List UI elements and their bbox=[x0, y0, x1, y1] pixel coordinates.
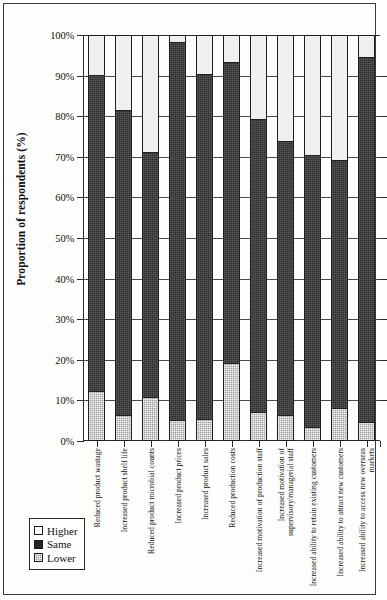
bar-segment-same bbox=[251, 119, 266, 413]
legend-swatch-higher-icon bbox=[34, 526, 43, 535]
y-axis-tick-right bbox=[379, 116, 387, 117]
x-axis-tick bbox=[353, 441, 380, 448]
y-axis-tick-label: 70% bbox=[55, 151, 74, 162]
category-label-slot: Increased product sales bbox=[191, 448, 218, 594]
x-axis-tick bbox=[299, 441, 326, 448]
bar-segment-same bbox=[89, 75, 104, 392]
x-axis-tick bbox=[326, 441, 353, 448]
category-label-slot: Increased motivation of production staff bbox=[245, 448, 272, 594]
bar-segment-lower bbox=[332, 409, 347, 440]
category-label: Increased motivation of production staff bbox=[254, 448, 263, 590]
bar-segment-higher bbox=[251, 36, 266, 119]
category-label-slot: Increased ability to access new overseas… bbox=[353, 448, 380, 594]
y-axis-tick-label: 90% bbox=[55, 70, 74, 81]
category-label: Increased product shelf life bbox=[119, 448, 128, 590]
stacked-bar[interactable] bbox=[331, 35, 348, 441]
bar-slot bbox=[299, 35, 326, 441]
category-label: Increased ability to retain existing cus… bbox=[308, 448, 317, 590]
bar-segment-higher bbox=[278, 36, 293, 141]
bar-segment-lower bbox=[89, 392, 104, 440]
y-axis-tick-label: 40% bbox=[55, 273, 74, 284]
x-axis-tick bbox=[218, 441, 245, 448]
y-axis-tick-label: 30% bbox=[55, 314, 74, 325]
bar-segment-same bbox=[197, 74, 212, 420]
legend-item-lower: Lower bbox=[34, 552, 78, 564]
x-axis-tick bbox=[164, 441, 191, 448]
stacked-bar[interactable] bbox=[304, 35, 321, 441]
bar-segment-higher bbox=[89, 36, 104, 75]
bar-slot bbox=[83, 35, 110, 441]
stacked-bar[interactable] bbox=[277, 35, 294, 441]
bar-slot bbox=[191, 35, 218, 441]
y-axis-tick-right bbox=[379, 197, 387, 198]
bar-slot bbox=[164, 35, 191, 441]
y-axis-tick-label: 100% bbox=[50, 30, 74, 41]
bar-segment-higher bbox=[305, 36, 320, 155]
stacked-bar[interactable] bbox=[250, 35, 267, 441]
stacked-bar[interactable] bbox=[88, 35, 105, 441]
category-label: Reduced product microbial counts bbox=[146, 448, 155, 590]
bar-segment-higher bbox=[143, 36, 158, 152]
bar-slot bbox=[218, 35, 245, 441]
x-axis-ticks bbox=[83, 441, 380, 448]
x-axis-tick bbox=[191, 441, 218, 448]
bar-segment-higher bbox=[224, 36, 239, 62]
bar-slot bbox=[326, 35, 353, 441]
x-axis-tick bbox=[245, 441, 272, 448]
category-label-slot: Increased ability to retain existing cus… bbox=[299, 448, 326, 594]
stacked-bar[interactable] bbox=[169, 35, 186, 441]
stacked-bar[interactable] bbox=[223, 35, 240, 441]
bar-segment-lower bbox=[116, 416, 131, 440]
x-axis-tick-end bbox=[380, 441, 381, 447]
category-label: Increased product sales bbox=[200, 448, 209, 590]
y-axis-tick-right bbox=[379, 157, 387, 158]
y-axis-tick-right bbox=[379, 319, 387, 320]
bar-segment-higher bbox=[197, 36, 212, 74]
category-label: Reduced production costs bbox=[227, 448, 236, 590]
stacked-bar[interactable] bbox=[115, 35, 132, 441]
y-axis-tick-right bbox=[379, 360, 387, 361]
chart-legend: Higher Same Lower bbox=[29, 518, 85, 570]
legend-item-higher: Higher bbox=[34, 525, 78, 537]
category-label-slot: Reduced production costs bbox=[218, 448, 245, 594]
bar-segment-lower bbox=[224, 364, 239, 440]
legend-item-same: Same bbox=[34, 538, 78, 550]
bar-segment-lower bbox=[359, 423, 374, 440]
bar-segment-lower bbox=[278, 416, 293, 440]
y-axis-tick-label: 10% bbox=[55, 395, 74, 406]
category-label-slot: Reduced product wastage bbox=[83, 448, 110, 594]
bar-segment-same bbox=[359, 57, 374, 423]
y-axis-tick-label: 60% bbox=[55, 192, 74, 203]
y-axis-tick-right bbox=[379, 76, 387, 77]
plot-area: 100%90%80%70%60%50%40%30%20%10%0% bbox=[83, 35, 380, 441]
stacked-bar[interactable] bbox=[358, 35, 375, 441]
bar-segment-higher bbox=[332, 36, 347, 160]
x-axis-tick bbox=[110, 441, 137, 448]
category-labels: Reduced product wastageIncreased product… bbox=[83, 448, 380, 594]
bar-segment-same bbox=[305, 155, 320, 428]
y-axis-title: Proportion of respondents (%) bbox=[12, 44, 30, 374]
bar-segment-same bbox=[116, 110, 131, 416]
legend-label-lower: Lower bbox=[47, 552, 76, 564]
x-axis-tick bbox=[83, 441, 110, 448]
bar-segment-same bbox=[143, 152, 158, 397]
y-axis-tick-label: 20% bbox=[55, 354, 74, 365]
bar-segment-lower bbox=[197, 420, 212, 440]
category-label: Increased motivation of supervisory/mana… bbox=[277, 448, 295, 590]
bar-slot bbox=[110, 35, 137, 441]
bar-segment-higher bbox=[116, 36, 131, 110]
y-axis-tick-label: 0% bbox=[60, 436, 74, 447]
y-axis-tick-label: 50% bbox=[55, 233, 74, 244]
bar-slot bbox=[272, 35, 299, 441]
category-label: Reduced product wastage bbox=[92, 448, 101, 590]
bar-segment-lower bbox=[305, 428, 320, 440]
y-axis-tick-label: 80% bbox=[55, 111, 74, 122]
bar-segment-lower bbox=[251, 413, 266, 440]
bar-group bbox=[83, 35, 380, 441]
bar-segment-same bbox=[170, 42, 185, 421]
y-axis-tick-right bbox=[379, 279, 387, 280]
bar-segment-same bbox=[224, 62, 239, 364]
category-label: Increased product prices bbox=[173, 448, 182, 590]
stacked-bar[interactable] bbox=[142, 35, 159, 441]
stacked-bar[interactable] bbox=[196, 35, 213, 441]
